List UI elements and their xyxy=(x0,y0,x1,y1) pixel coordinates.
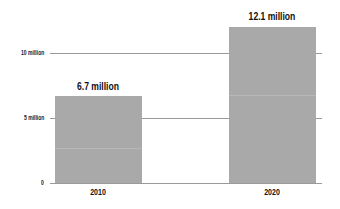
value-label-2010: 6.7 million xyxy=(51,80,145,92)
bar-2010 xyxy=(55,96,142,183)
bar-chart: 10 million 5 million 0 6.7 million 12.1 … xyxy=(0,0,340,209)
bar-2020 xyxy=(229,27,316,183)
y-tick-10m: 10 million xyxy=(21,49,44,57)
y-tick-0: 0 xyxy=(41,179,44,187)
gridline-0 xyxy=(50,183,322,184)
x-label-2020: 2020 xyxy=(249,187,296,197)
value-label-2020: 12.1 million xyxy=(225,10,319,22)
y-tick-5m: 5 million xyxy=(24,114,44,122)
x-label-2010: 2010 xyxy=(75,187,122,197)
